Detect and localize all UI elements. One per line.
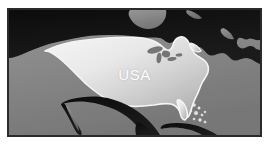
map-figure: USA	[0, 0, 269, 144]
north-america-map	[9, 10, 260, 135]
map-frame-border: USA	[7, 8, 262, 137]
plate-vignette	[9, 10, 260, 135]
